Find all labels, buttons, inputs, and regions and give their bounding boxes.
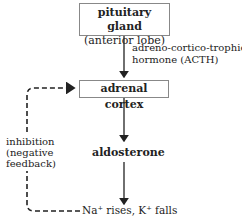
pituitary-title: pituitary gland: [80, 6, 169, 34]
pituitary-gland-node: pituitary gland (anterior lobe): [79, 3, 170, 36]
acth-label: adreno-cortico-trophic hormone (ACTH): [132, 42, 242, 66]
effect-node: Na⁺ rises, K⁺ falls: [82, 204, 177, 216]
feedback-line1: inhibition: [6, 136, 56, 147]
feedback-line2: (negative: [6, 147, 56, 158]
adrenal-cortex-node: adrenal cortex: [79, 80, 169, 98]
feedback-label: inhibition (negative feedback): [6, 136, 56, 169]
feedback-line3: feedback): [6, 158, 56, 169]
aldosterone-node: aldosterone: [92, 146, 165, 159]
acth-label-line1: adreno-cortico-trophic: [132, 42, 242, 54]
acth-label-line2: hormone (ACTH): [132, 54, 242, 66]
feedback-loop: [27, 171, 80, 211]
